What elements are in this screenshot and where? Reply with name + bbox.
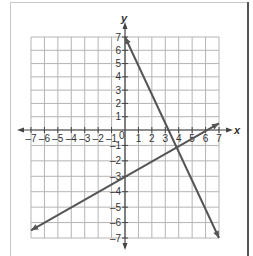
x-axis-left-arrow-icon [17,128,24,133]
x-tick-label: 3 [163,133,169,144]
x-tick-label: –7 [25,133,37,144]
y-tick-label: –5 [110,202,122,213]
y-tick-label: –2 [110,155,122,166]
y-tick-label: –1 [110,140,122,151]
y-tick-label: –4 [110,186,122,197]
x-axis-title: x [233,124,241,136]
y-tick-label: –6 [110,217,122,228]
y-axis-title: y [120,12,128,24]
y-tick-label: 5 [115,58,121,69]
y-tick-label: 6 [115,45,121,56]
y-tick-label: –7 [110,233,122,244]
y-tick-label: 3 [115,85,121,96]
y-tick-label: 7 [115,32,121,43]
y-tick-label: 2 [115,98,121,109]
x-tick-label: –2 [93,133,105,144]
x-tick-label: 4 [176,133,182,144]
x-tick-label: 6 [203,133,209,144]
coordinate-plane: –7–6–5–4–3–2–1012345677654321–1–2–3–4–5–… [0,0,253,256]
x-tick-label: 2 [149,133,155,144]
x-axis-right-arrow-icon [226,128,233,133]
x-tick-label: –5 [52,133,64,144]
x-tick-label: –6 [39,133,51,144]
x-tick-label: –4 [66,133,78,144]
y-axis-down-arrow-icon [123,243,128,250]
y-tick-label: 1 [115,111,121,122]
y-tick-label: 4 [115,71,121,82]
x-tick-label: –3 [79,133,91,144]
x-tick-label: 1 [136,133,142,144]
x-tick-label: 7 [216,133,222,144]
